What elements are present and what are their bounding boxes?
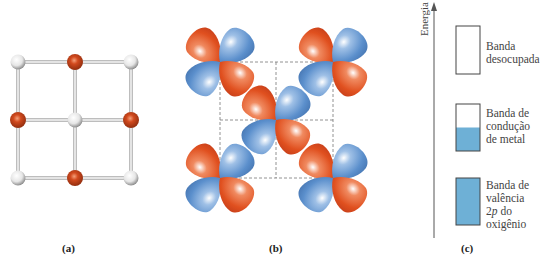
panel-label-c: (c) (461, 242, 474, 255)
metal-atom (11, 171, 26, 186)
metal-atom (68, 113, 83, 128)
panel-label-b: (b) (269, 242, 283, 255)
band-fill (456, 178, 480, 225)
band-metal-conduction-band (456, 104, 480, 151)
band-empty-band (456, 26, 480, 74)
d-orbital (180, 138, 259, 217)
metal-atom (124, 171, 139, 186)
oxygen-atom (123, 112, 139, 128)
band-oxygen-valence-band (456, 178, 480, 225)
band-label-valence: Banda de valência 2p do oxigênio (486, 179, 529, 231)
panel-label-a: (a) (62, 242, 75, 255)
d-orbitals (180, 22, 372, 217)
energy-axis (431, 2, 437, 238)
band-label-conduction: Banda de condução de metal (486, 107, 530, 146)
band-fill (456, 128, 480, 152)
metal-atom (124, 55, 139, 70)
energy-bands (456, 26, 480, 225)
figure-canvas: Energia (a) (b) (c) (0, 0, 542, 264)
oxygen-atom (67, 54, 83, 70)
metal-atom (11, 55, 26, 70)
band-label-empty: Banda desocupada (486, 40, 540, 66)
oxygen-atom (10, 112, 26, 128)
energy-axis-label: Energia (418, 2, 430, 36)
arrow-up-icon (431, 2, 437, 11)
oxygen-atom (67, 170, 83, 186)
atom-lattice (10, 54, 139, 186)
band-outline (456, 26, 480, 74)
